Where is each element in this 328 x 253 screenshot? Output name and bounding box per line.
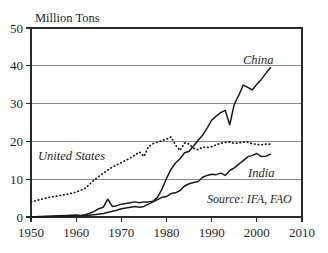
x-tick-label-1980: 1980 [154, 225, 180, 240]
x-tick-label-1990: 1990 [199, 225, 225, 240]
series-path-india [31, 154, 270, 218]
y-tick-label-20: 20 [10, 134, 23, 149]
y-tick-label-0: 0 [17, 210, 24, 225]
series-label-united-states: United States [38, 149, 105, 163]
series-label-india: India [247, 166, 274, 180]
x-tick-label-1950: 1950 [18, 225, 44, 240]
y-tick-label-10: 10 [10, 172, 23, 187]
x-tick-labels: 1950 1960 1970 1980 1990 2000 2010 [18, 225, 315, 240]
x-tick-label-2000: 2000 [244, 225, 270, 240]
x-tick-label-1970: 1970 [108, 225, 134, 240]
x-tick-label-2010: 2010 [289, 225, 315, 240]
y-tick-label-30: 30 [10, 96, 23, 111]
chart-canvas: 50 40 30 20 10 0 1950 1960 1970 1980 199… [0, 0, 328, 253]
y-tick-labels: 50 40 30 20 10 0 [10, 21, 23, 225]
chart-figure: 50 40 30 20 10 0 1950 1960 1970 1980 199… [0, 0, 328, 253]
y-axis-tickmarks [26, 28, 31, 217]
source-annotation: Source: IFA, FAO [207, 192, 292, 206]
y-axis-title: Million Tons [35, 11, 100, 25]
y-tick-label-40: 40 [10, 58, 23, 73]
x-axis-tickmarks [31, 217, 302, 222]
y-tick-label-50: 50 [10, 21, 23, 36]
series-label-china: China [243, 53, 274, 67]
x-tick-label-1960: 1960 [63, 225, 89, 240]
